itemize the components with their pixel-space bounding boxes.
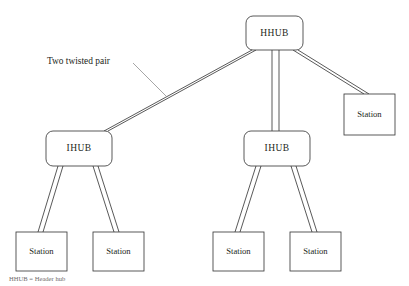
node-ihub-left[interactable]: IHUB	[46, 131, 112, 166]
cable-strand-b	[296, 166, 317, 232]
node-station-bottom-left-2[interactable]: Station	[93, 232, 144, 271]
network-topology-diagram: HHUB IHUB IHUB Station Station Station	[0, 0, 409, 286]
node-layer: HHUB IHUB IHUB Station Station Station	[16, 16, 395, 271]
diagram-canvas: HHUB IHUB IHUB Station Station Station	[0, 0, 409, 286]
cable-strand-b	[98, 166, 119, 232]
header-hub-label: HHUB	[260, 28, 289, 38]
link-ihub-right-to-station-2	[291, 166, 317, 232]
node-ihub-right[interactable]: IHUB	[244, 131, 310, 166]
link-hhub-to-station-right	[293, 50, 369, 94]
ihub-left-label: IHUB	[67, 143, 92, 153]
annotation-two-twisted-pair: Two twisted pair	[47, 56, 166, 96]
link-ihub-left-to-station-2	[93, 166, 119, 232]
link-ihub-right-to-station-1	[235, 166, 261, 232]
cable-strand-b	[298, 50, 369, 94]
cable-strand-b	[43, 166, 63, 232]
figure-caption: HHUB = Header hub	[9, 275, 66, 282]
station-br-2-label: Station	[303, 246, 328, 256]
link-hhub-to-ihub-right	[272, 50, 279, 131]
node-header-hub[interactable]: HHUB	[246, 16, 303, 50]
cable-strand-a	[293, 50, 364, 94]
station-br-1-label: Station	[226, 246, 251, 256]
caption-text: HHUB = Header hub	[9, 275, 66, 282]
cable-strand-a	[235, 166, 256, 232]
link-ihub-left-to-station-1	[38, 166, 63, 232]
node-station-right[interactable]: Station	[344, 94, 395, 135]
cable-strand-a	[104, 50, 252, 131]
station-right-label: Station	[357, 109, 382, 119]
station-bl-1-label: Station	[29, 246, 54, 256]
annotation-leader-line	[133, 63, 166, 96]
cable-strand-b	[108, 50, 256, 131]
node-station-bottom-left-1[interactable]: Station	[16, 232, 67, 271]
cable-strand-a	[93, 166, 114, 232]
station-bl-2-label: Station	[106, 246, 131, 256]
link-hhub-to-ihub-left	[104, 50, 256, 131]
cable-strand-a	[291, 166, 312, 232]
cable-strand-b	[240, 166, 261, 232]
node-station-bottom-right-1[interactable]: Station	[213, 232, 264, 271]
ihub-right-label: IHUB	[265, 143, 290, 153]
two-twisted-pair-label: Two twisted pair	[47, 56, 111, 66]
node-station-bottom-right-2[interactable]: Station	[290, 232, 341, 271]
cable-strand-a	[38, 166, 58, 232]
